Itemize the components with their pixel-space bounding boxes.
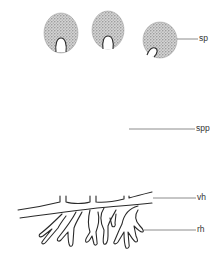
sporangium-1 [44, 13, 78, 53]
label-sporangiophore: spp [196, 124, 210, 133]
label-sporangium: sp [199, 34, 208, 43]
sporangium-2 [92, 11, 124, 49]
sporangium-3 [143, 22, 177, 58]
rhizopus-diagram [0, 0, 218, 266]
rhizoids [39, 206, 143, 248]
vegetative-hypha [18, 192, 152, 218]
sporangiophore-2 [107, 44, 126, 196]
label-rhizoids: rh [197, 225, 205, 234]
label-vegetative-hypha: vh [197, 193, 206, 202]
sporangiophore-1 [62, 46, 92, 196]
